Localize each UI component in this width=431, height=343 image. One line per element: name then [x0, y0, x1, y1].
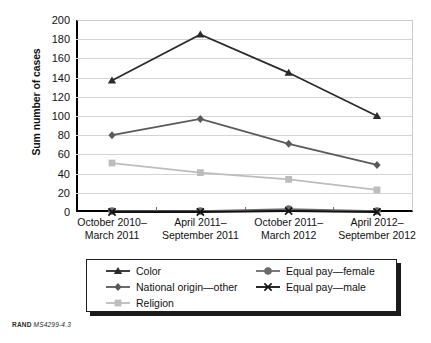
rand-brand-label: RAND — [12, 321, 32, 328]
series-group — [109, 160, 381, 194]
series-group — [108, 115, 380, 169]
y-axis-tick-label: 40 — [58, 168, 70, 180]
series-group — [108, 30, 381, 119]
legend-marker-x-icon — [255, 281, 281, 293]
y-axis-tick-label: 20 — [58, 187, 70, 199]
legend-label: National origin—other — [136, 281, 238, 293]
x-axis-tick-label-line: October 2011– — [254, 216, 323, 229]
legend-item[interactable]: National origin—other — [105, 281, 238, 293]
data-point-marker-square — [197, 169, 204, 176]
data-point-marker-diamond — [285, 140, 292, 148]
series-line — [112, 211, 377, 212]
legend-marker-diamond-icon — [105, 281, 131, 293]
data-point-marker-diamond — [373, 161, 380, 169]
series-line — [112, 163, 377, 190]
legend-marker-triangle-icon — [105, 265, 131, 277]
plot-area: 200180160140120100806040200 October 2010… — [76, 20, 413, 212]
data-point-marker-circle — [264, 267, 272, 275]
data-point-marker-diamond — [197, 115, 204, 123]
y-axis-title: Sum number of cases — [30, 22, 42, 182]
data-point-marker-square — [109, 160, 116, 167]
legend-label: Equal pay—male — [286, 281, 366, 293]
data-point-marker-square — [374, 187, 381, 194]
legend-label: Color — [136, 265, 161, 277]
legend-item[interactable]: Color — [105, 265, 161, 277]
series-group — [108, 207, 380, 215]
legend-label: Equal pay—female — [286, 265, 375, 277]
x-axis-tick-label: October 2011–March 2012 — [254, 216, 323, 241]
x-axis-tick-label-line: September 2012 — [338, 229, 416, 242]
data-point-marker-diamond — [108, 131, 115, 139]
x-axis-tick-label-line: April 2011– — [162, 216, 239, 229]
y-axis-tick-label: 80 — [58, 129, 70, 141]
series-group — [108, 205, 381, 215]
y-axis-tick-label: 180 — [52, 33, 70, 45]
series-line — [112, 119, 377, 165]
data-point-marker-square — [115, 300, 122, 307]
y-axis-tick-label: 140 — [52, 72, 70, 84]
data-point-marker-triangle — [108, 76, 116, 83]
y-axis-tick-label: 60 — [58, 148, 70, 160]
x-axis-tick-label: October 2010–March 2011 — [77, 216, 146, 241]
figure-source-note: RAND MS4299-4.3 — [12, 321, 71, 328]
legend-label: Religion — [136, 297, 174, 309]
legend-marker-square-icon — [105, 297, 131, 309]
y-axis-tick-label: 160 — [52, 52, 70, 64]
x-axis-tick-label-line: April 2012– — [338, 216, 416, 229]
x-axis-tick-label-line: September 2011 — [162, 229, 239, 242]
y-axis-tick-label: 0 — [64, 206, 70, 218]
y-axis-tick-label: 120 — [52, 91, 70, 103]
legend-item[interactable]: Religion — [105, 297, 174, 309]
x-axis-tick-label-line: October 2010– — [77, 216, 146, 229]
data-point-marker-square — [285, 176, 292, 183]
series-line — [112, 34, 377, 116]
figure-id-label: MS4299-4.3 — [34, 321, 71, 328]
chart-legend: ColorEqual pay—femaleNational origin—oth… — [86, 259, 397, 312]
data-point-marker-diamond — [114, 283, 121, 291]
x-axis-tick-label: April 2011–September 2011 — [162, 216, 239, 241]
x-axis-tick-label-line: March 2011 — [77, 229, 146, 242]
series-layer — [76, 20, 413, 212]
legend-item[interactable]: Equal pay—female — [255, 265, 375, 277]
y-axis-tick-label: 100 — [52, 110, 70, 122]
legend-item[interactable]: Equal pay—male — [255, 281, 366, 293]
data-point-marker-triangle — [196, 30, 204, 37]
x-axis-tick-label-line: March 2012 — [254, 229, 323, 242]
y-axis-tick-label: 200 — [52, 14, 70, 26]
line-chart-figure: Sum number of cases 20018016014012010080… — [0, 0, 431, 343]
x-axis-tick-label: April 2012–September 2012 — [338, 216, 416, 241]
legend-marker-circle-icon — [255, 265, 281, 277]
